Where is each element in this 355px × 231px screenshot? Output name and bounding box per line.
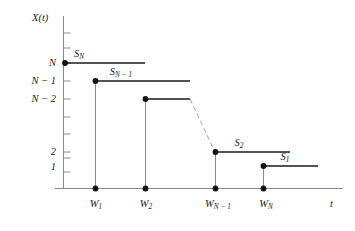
- x-label-W1-base: W: [90, 198, 99, 209]
- x-label-WN1-sub: N − 1: [214, 202, 231, 211]
- x-tick-marks: [96, 181, 264, 188]
- y-label-1: 1: [20, 162, 56, 173]
- dot-W1: [93, 186, 99, 192]
- plot-area: [0, 0, 355, 231]
- step-label-S-N-sub: N: [79, 52, 84, 61]
- dot-W-N-1: [213, 186, 219, 192]
- dot-W-N: [261, 186, 267, 192]
- y-label-2: 2: [20, 147, 56, 158]
- step-label-S-1: S1: [281, 152, 290, 163]
- dot-level-2: [213, 149, 219, 155]
- step-drops: [96, 81, 264, 188]
- x-label-WN-base: W: [259, 198, 268, 209]
- x-label-W2: W2: [140, 199, 152, 210]
- dot-level-1: [261, 163, 267, 169]
- y-tick-marks: [64, 33, 71, 172]
- step-function-chart: X(t) N N − 1 N − 2 2 1 W1 W2 WN − 1 WN t…: [0, 0, 355, 231]
- dot-W2: [143, 186, 149, 192]
- step-label-S-2: S2: [235, 138, 244, 149]
- step-label-S-N: SN: [74, 49, 84, 60]
- y-label-N: N: [20, 58, 56, 69]
- dot-level-N: [62, 60, 68, 66]
- x-label-W1: W1: [90, 199, 102, 210]
- x-label-W-N: WN: [259, 199, 273, 210]
- dot-level-N-1: [93, 78, 99, 84]
- step-label-S-1-sub: 1: [286, 155, 290, 164]
- step-label-S-N-minus-1: SN − 1: [110, 67, 132, 78]
- x-label-W2-sub: 2: [149, 202, 153, 211]
- step-label-S-2-sub: 2: [240, 141, 244, 150]
- y-label-N-minus-2: N − 2: [8, 94, 56, 105]
- x-label-WN-sub: N: [268, 202, 273, 211]
- ellipsis-connector: [190, 99, 215, 152]
- step-label-S-N1-sub: N − 1: [115, 70, 132, 79]
- x-label-WN1-base: W: [205, 198, 214, 209]
- y-label-N-minus-1: N − 1: [8, 76, 56, 87]
- x-label-W-N-minus-1: WN − 1: [205, 199, 231, 210]
- x-label-W2-base: W: [140, 198, 149, 209]
- y-axis-title: X(t): [32, 13, 48, 24]
- dot-level-N-2: [143, 96, 149, 102]
- x-axis-title: t: [330, 199, 333, 210]
- x-label-W1-sub: 1: [99, 202, 103, 211]
